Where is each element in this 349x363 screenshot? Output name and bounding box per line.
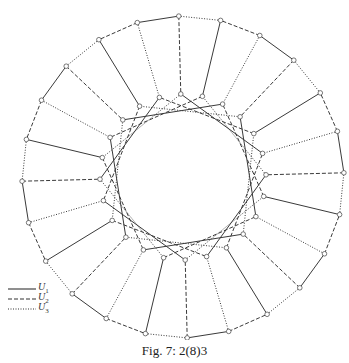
dashed-line-swatch-icon — [8, 294, 36, 304]
outer-edge — [29, 223, 46, 261]
vertex-node — [200, 94, 205, 99]
outer-edge — [337, 131, 344, 173]
spoke-edge — [29, 201, 104, 223]
vertex-node — [101, 198, 106, 203]
outer-edge — [260, 36, 294, 61]
solid-line-swatch-icon — [8, 284, 36, 294]
vertex-node — [261, 194, 266, 199]
vertex-node — [218, 18, 223, 23]
inner-chord-edge — [185, 196, 264, 260]
graph-vertices — [20, 14, 346, 340]
spoke-edge — [185, 260, 187, 338]
spoke-edge — [264, 196, 340, 214]
spoke-edge — [207, 257, 229, 332]
spoke-edge — [26, 139, 102, 157]
vertex-node — [161, 255, 166, 260]
spoke-edge — [266, 173, 344, 175]
spoke-edge — [22, 179, 100, 181]
spoke-edge — [66, 66, 123, 120]
spoke-edge — [243, 234, 300, 288]
outer-edge — [300, 254, 325, 288]
vertex-node — [24, 137, 29, 142]
vertex-node — [183, 258, 188, 263]
vertex-node — [26, 220, 31, 225]
vertex-node — [292, 58, 297, 63]
vertex-node — [179, 92, 184, 97]
spoke-edge — [137, 23, 159, 98]
spoke-edge — [226, 248, 267, 314]
outer-edge — [99, 23, 137, 40]
spoke-edge — [99, 40, 140, 107]
vertex-node — [342, 171, 347, 176]
vertex-node — [238, 115, 243, 120]
spoke-edge — [42, 100, 111, 137]
outer-edge — [294, 60, 321, 93]
vertex-node — [64, 64, 69, 69]
outer-edge — [22, 181, 29, 223]
vertex-node — [135, 20, 140, 25]
spoke-edge — [202, 20, 220, 96]
vertex-node — [264, 173, 269, 178]
spoke-edge — [240, 60, 294, 117]
inner-chord-edge — [102, 94, 181, 158]
outer-edge — [320, 93, 337, 131]
outer-edge — [229, 314, 267, 331]
spoke-edge — [263, 131, 338, 153]
figure-caption: Fig. 7: 2(8)3 — [0, 343, 349, 359]
outer-edge — [221, 20, 260, 35]
outer-edge — [26, 100, 41, 139]
outer-edge — [179, 16, 221, 20]
vertex-node — [335, 129, 340, 134]
outer-edge — [145, 334, 187, 338]
vertex-node — [258, 33, 263, 38]
outer-edge — [106, 319, 145, 334]
vertex-node — [104, 316, 109, 321]
outer-edge — [325, 215, 340, 254]
vertex-node — [143, 331, 148, 336]
vertex-node — [254, 214, 259, 219]
outer-edge — [267, 288, 300, 315]
vertex-node — [70, 292, 75, 297]
vertex-node — [337, 212, 342, 217]
outer-edge — [66, 40, 99, 66]
vertex-node — [260, 151, 265, 156]
graph-edges — [22, 16, 344, 338]
vertex-node — [204, 254, 209, 259]
legend: U1 U2 U3 — [8, 284, 49, 314]
outer-edge — [22, 139, 26, 181]
vertex-node — [141, 248, 146, 253]
spoke-edge — [256, 217, 325, 254]
vertex-node — [98, 177, 103, 182]
vertex-node — [185, 336, 190, 340]
spoke-edge — [72, 237, 126, 294]
vertex-node — [43, 259, 48, 264]
spoke-edge — [145, 258, 163, 334]
vertex-node — [20, 179, 25, 184]
vertex-node — [226, 329, 231, 334]
vertex-node — [157, 95, 162, 100]
vertex-node — [318, 91, 323, 96]
vertex-node — [220, 102, 225, 107]
legend-label-u3: U3 — [38, 302, 49, 316]
spoke-edge — [46, 220, 113, 261]
vertex-node — [224, 246, 229, 251]
vertex-node — [137, 104, 142, 109]
vertex-node — [124, 235, 129, 240]
vertex-node — [241, 232, 246, 237]
vertex-node — [177, 14, 182, 19]
dotted-line-swatch-icon — [8, 304, 36, 314]
vertex-node — [100, 155, 105, 160]
legend-item-u3: U3 — [8, 304, 49, 314]
vertex-node — [108, 135, 113, 140]
outer-edge — [42, 66, 67, 100]
outer-edge — [72, 294, 106, 319]
spoke-edge — [106, 250, 143, 319]
spoke-edge — [254, 93, 320, 134]
spoke-edge — [223, 36, 260, 105]
vertex-node — [97, 37, 102, 42]
vertex-node — [265, 312, 270, 317]
outer-edge — [46, 261, 72, 294]
cubic-graph-diagram — [0, 0, 349, 340]
vertex-node — [322, 252, 327, 257]
outer-edge — [137, 16, 179, 23]
